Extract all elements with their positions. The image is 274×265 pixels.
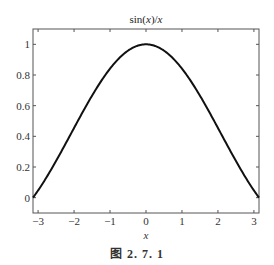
x-tick-label: −3 [32, 215, 44, 227]
x-tick-label: 3 [251, 215, 257, 227]
x-tick-label: 1 [179, 215, 185, 227]
x-axis: −3−2−10123 [32, 29, 257, 227]
chart-title: sin(x)/x [129, 13, 162, 26]
y-tick-label: 0.8 [16, 69, 30, 81]
y-tick-label: 1 [25, 38, 31, 50]
x-tick-label: 2 [215, 215, 221, 227]
x-tick-label: −1 [104, 215, 116, 227]
y-axis: 00.20.40.60.81 [16, 38, 259, 203]
x-axis-label: x [143, 229, 149, 241]
chart: sin(x)/x −3−2−10123 00.20.40.60.81 x [0, 0, 274, 265]
figure-caption: 图 2. 7. 1 [0, 244, 274, 262]
y-tick-label: 0 [25, 192, 31, 204]
y-tick-label: 0.6 [16, 100, 30, 112]
y-tick-label: 0.2 [16, 161, 30, 173]
data-line [33, 44, 259, 197]
plot-frame [33, 29, 259, 213]
y-tick-label: 0.4 [16, 130, 30, 142]
x-tick-label: 0 [143, 215, 149, 227]
x-tick-label: −2 [68, 215, 80, 227]
